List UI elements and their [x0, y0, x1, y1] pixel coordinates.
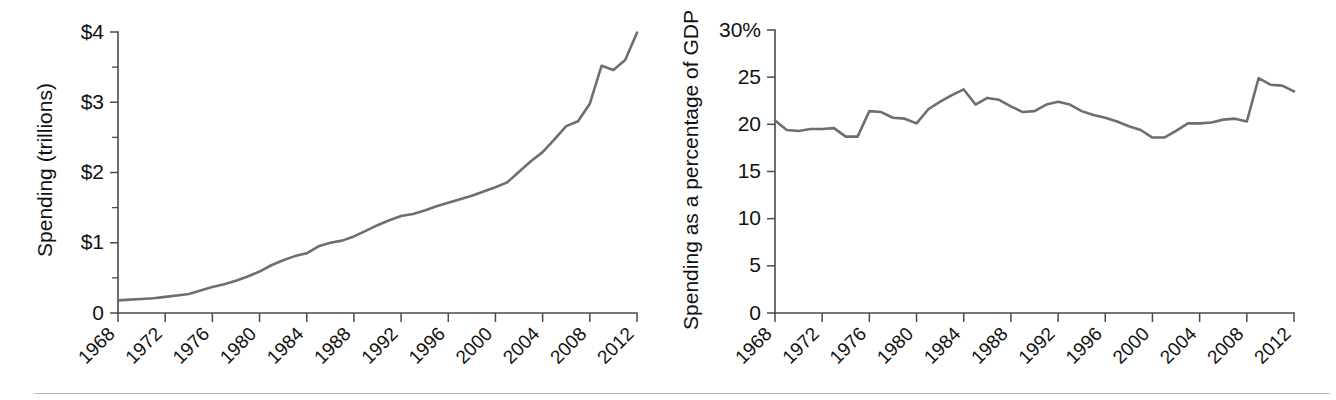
x-tick-label: 2004 [499, 323, 544, 368]
x-tick-label: 1988 [967, 323, 1012, 368]
chart-panel-spending-trillions: 0$1$2$3$4 196819721976198019841988199219… [0, 0, 668, 400]
y-axis-title: Spending as a percentage of GDP [679, 10, 702, 330]
y-tick-label: $1 [81, 230, 104, 253]
data-line-series-0 [775, 78, 1294, 137]
x-tick-marks [118, 313, 637, 322]
x-tick-label: 2012 [593, 323, 638, 368]
y-tick-label: 20 [738, 112, 761, 135]
x-tick-label: 1976 [168, 323, 213, 368]
y-tick-label: 0 [749, 301, 761, 324]
x-tick-label: 1984 [263, 323, 308, 368]
footer-rule [34, 393, 1330, 394]
x-tick-label: 1988 [310, 323, 355, 368]
x-tick-label: 2004 [1156, 323, 1201, 368]
x-tick-label: 1976 [825, 323, 870, 368]
x-tick-label: 1996 [404, 323, 449, 368]
x-tick-label: 1968 [731, 323, 776, 368]
y-tick-marks [110, 32, 118, 313]
x-tick-label: 2000 [1109, 323, 1154, 368]
x-tick-label: 1980 [216, 323, 261, 368]
y-tick-label: 5 [749, 253, 761, 276]
y-tick-label: $2 [81, 160, 104, 183]
y-tick-label: $3 [81, 90, 104, 113]
x-tick-labels: 1968197219761980198419881992199620002004… [731, 323, 1295, 368]
x-tick-label: 2008 [1203, 323, 1248, 368]
x-tick-label: 1992 [357, 323, 402, 368]
y-tick-label: $4 [81, 20, 105, 43]
x-tick-label: 1968 [74, 323, 119, 368]
y-axis-title: Spending (trillions) [33, 83, 56, 257]
y-tick-label: 0 [92, 301, 104, 324]
chart-panel-spending-percent-gdp: 051015202530% 19681972197619801984198819… [668, 0, 1336, 400]
data-line-series-0 [118, 33, 637, 301]
x-tick-label: 1996 [1061, 323, 1106, 368]
y-tick-label: 10 [738, 206, 761, 229]
x-tick-label: 1992 [1014, 323, 1059, 368]
y-tick-label: 25 [738, 65, 761, 88]
x-tick-label: 2012 [1250, 323, 1295, 368]
x-tick-label: 1980 [873, 323, 918, 368]
x-tick-label: 1972 [121, 323, 166, 368]
y-tick-label: 30% [719, 18, 761, 41]
y-tick-marks [767, 30, 775, 313]
x-tick-label: 1972 [778, 323, 823, 368]
x-tick-labels: 1968197219761980198419881992199620002004… [74, 323, 638, 368]
y-tick-labels: 051015202530% [719, 18, 761, 324]
x-tick-label: 2000 [452, 323, 497, 368]
x-tick-label: 1984 [920, 323, 965, 368]
x-tick-label: 2008 [546, 323, 591, 368]
y-tick-labels: 0$1$2$3$4 [81, 20, 105, 324]
x-tick-marks [775, 313, 1294, 322]
two-panel-line-chart-figure: 0$1$2$3$4 196819721976198019841988199219… [0, 0, 1336, 400]
y-tick-label: 15 [738, 159, 761, 182]
